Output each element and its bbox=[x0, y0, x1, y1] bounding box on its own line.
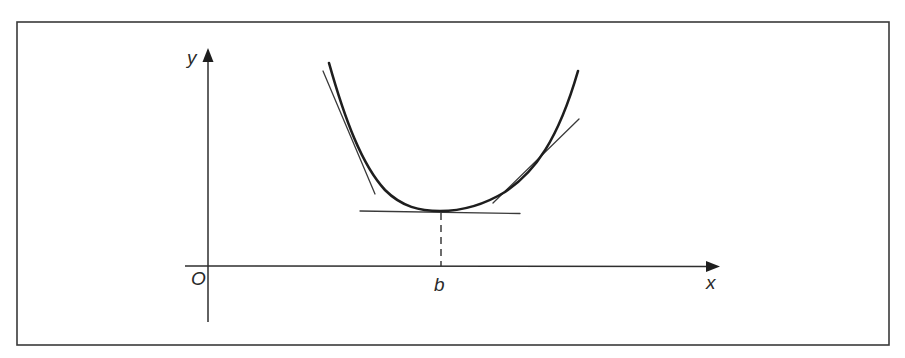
x-axis bbox=[185, 266, 708, 267]
x-axis-label: x bbox=[705, 272, 717, 293]
minimum-x-label: b bbox=[434, 274, 445, 295]
u-shaped-curve bbox=[329, 63, 578, 211]
minimum-diagram: y x O b bbox=[0, 0, 905, 358]
left-tangent-line bbox=[323, 71, 375, 194]
figure-frame bbox=[17, 22, 889, 345]
x-axis-arrow-icon bbox=[706, 261, 720, 272]
y-axis-label: y bbox=[185, 47, 198, 68]
origin-label: O bbox=[191, 268, 206, 289]
y-axis-arrow-icon bbox=[203, 48, 214, 62]
